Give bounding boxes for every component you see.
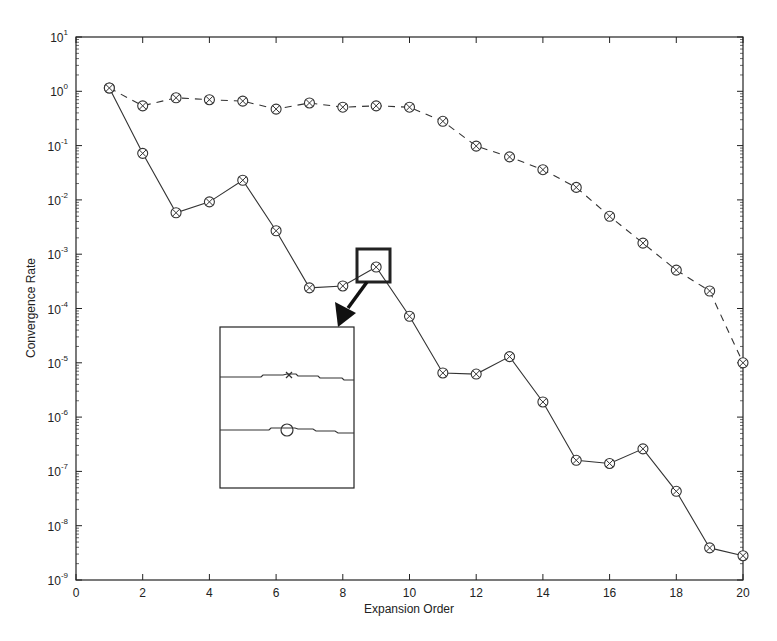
circle-x-marker-icon (605, 211, 615, 221)
circle-x-marker-icon (505, 352, 515, 362)
circle-x-marker-icon (671, 265, 681, 275)
circle-x-marker-icon (338, 281, 348, 291)
x-tick-label: 2 (139, 586, 146, 600)
circle-x-marker-icon (438, 368, 448, 378)
circle-x-marker-icon (605, 458, 615, 468)
circle-x-marker-icon (371, 101, 381, 111)
x-tick-label: 4 (206, 586, 213, 600)
circle-x-marker-icon (138, 101, 148, 111)
circle-x-marker-icon (304, 98, 314, 108)
zoom-inset (220, 327, 354, 488)
circle-x-marker-icon (571, 455, 581, 465)
circle-x-marker-icon (505, 152, 515, 162)
circle-x-marker-icon (705, 286, 715, 296)
circle-x-marker-icon (738, 551, 748, 561)
x-tick-label: 8 (339, 586, 346, 600)
x-tick-label: 0 (73, 586, 80, 600)
x-axis-title: Expansion Order (364, 602, 454, 616)
circle-x-marker-icon (338, 102, 348, 112)
x-tick-label: 12 (470, 586, 484, 600)
circle-x-marker-icon (671, 486, 681, 496)
circle-x-marker-icon (405, 102, 415, 112)
circle-x-marker-icon (171, 208, 181, 218)
chart-background (0, 0, 777, 641)
x-tick-label: 14 (536, 586, 550, 600)
circle-x-marker-icon (471, 141, 481, 151)
circle-x-marker-icon (204, 197, 214, 207)
circle-x-marker-icon (438, 116, 448, 126)
circle-x-marker-icon (104, 83, 114, 93)
x-tick-label: 10 (403, 586, 417, 600)
circle-x-marker-icon (738, 358, 748, 368)
circle-x-marker-icon (271, 104, 281, 114)
circle-x-marker-icon (271, 226, 281, 236)
x-tick-label: 16 (603, 586, 617, 600)
circle-x-marker-icon (638, 238, 648, 248)
circle-x-marker-icon (371, 262, 381, 272)
circle-x-marker-icon (238, 175, 248, 185)
circle-x-marker-icon (538, 165, 548, 175)
x-tick-label: 6 (273, 586, 280, 600)
circle-x-marker-icon (571, 182, 581, 192)
x-tick-label: 20 (736, 586, 750, 600)
circle-x-marker-icon (705, 543, 715, 553)
y-axis-title: Convergence Rate (24, 258, 38, 358)
circle-x-marker-icon (304, 283, 314, 293)
convergence-chart: 02468101214161820 10110010-110-210-310-4… (0, 0, 777, 641)
circle-x-marker-icon (405, 311, 415, 321)
circle-x-marker-icon (138, 148, 148, 158)
circle-x-marker-icon (171, 93, 181, 103)
circle-x-marker-icon (638, 444, 648, 454)
circle-x-marker-icon (538, 397, 548, 407)
x-tick-label: 18 (670, 586, 684, 600)
circle-x-marker-icon (471, 369, 481, 379)
circle-x-marker-icon (238, 96, 248, 106)
inset-frame (220, 327, 354, 488)
circle-x-marker-icon (204, 95, 214, 105)
